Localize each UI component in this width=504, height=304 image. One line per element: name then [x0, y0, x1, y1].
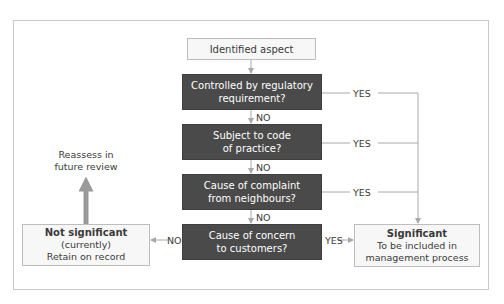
yes-label-1: YES	[353, 88, 371, 99]
yes-label-2: YES	[353, 138, 371, 149]
decision-line: to customers?	[217, 242, 288, 255]
decision-regulatory-requirement: Controlled by regulatory requirement?	[182, 74, 322, 110]
decision-line: Subject to code	[213, 129, 291, 142]
significant-title: Significant	[387, 228, 447, 240]
no-label-1: NO	[256, 112, 271, 123]
identified-aspect-label: Identified aspect	[210, 43, 294, 56]
no-label-2: NO	[256, 162, 271, 173]
not-significant-title: Not significant	[45, 227, 128, 239]
decision-code-of-practice: Subject to code of practice?	[182, 124, 322, 160]
decision-line: Cause of concern	[209, 229, 296, 242]
no-label-3: NO	[256, 212, 271, 223]
reassess-line1: Reassess in	[58, 149, 113, 161]
reassess-line2: future review	[54, 161, 117, 173]
significant-line2: To be included in	[377, 240, 457, 252]
identified-aspect-box: Identified aspect	[187, 38, 316, 60]
not-significant-subtitle: (currently)	[61, 239, 111, 251]
decision-concern-to-customers: Cause of concern to customers?	[182, 224, 322, 260]
decision-line: of practice?	[223, 142, 282, 155]
not-significant-note: Retain on record	[47, 251, 125, 263]
not-significant-box: Not significant (currently) Retain on re…	[22, 224, 150, 266]
yes-label-3: YES	[353, 187, 371, 198]
decision-complaint-from-neighbours: Cause of complaint from neighbours?	[182, 174, 322, 210]
decision-line: Cause of complaint	[204, 179, 300, 192]
decision-line: Controlled by regulatory	[191, 79, 313, 92]
significant-line3: management process	[365, 252, 468, 264]
yes-label-4: YES	[325, 235, 343, 246]
significant-box: Significant To be included in management…	[354, 224, 480, 267]
reassess-label: Reassess in future review	[36, 148, 136, 174]
no-label-4: NO	[167, 235, 182, 246]
decision-line: from neighbours?	[208, 192, 296, 205]
decision-line: requirement?	[218, 92, 285, 105]
